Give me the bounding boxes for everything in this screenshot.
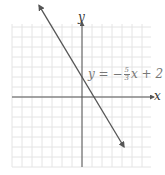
- graph: [0, 0, 165, 175]
- fraction-denominator: 3: [124, 75, 130, 82]
- equation-rhs: x + 2: [131, 67, 163, 81]
- equation-fraction: 53: [124, 67, 130, 82]
- y-axis-label: y: [78, 10, 85, 24]
- equation-lhs: y = −: [88, 67, 123, 81]
- axes: [12, 22, 154, 167]
- x-axis-label: x: [154, 89, 161, 103]
- equation-label: y = −53x + 2: [88, 67, 163, 82]
